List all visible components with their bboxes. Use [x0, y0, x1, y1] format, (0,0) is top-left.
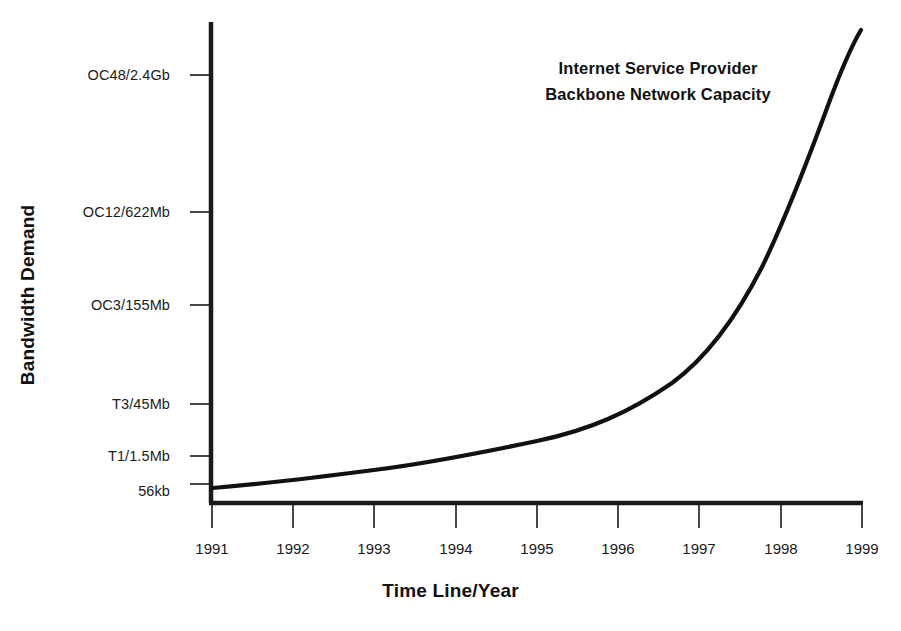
x-axis-title: Time Line/Year: [0, 580, 901, 602]
chart-figure: OC48/2.4Gb OC12/622Mb OC3/155Mb T3/45Mb …: [0, 0, 901, 631]
x-tick-label-1991: 1991: [172, 541, 252, 556]
y-axis-title: Bandwidth Demand: [17, 175, 39, 415]
x-tick-label-1992: 1992: [253, 541, 333, 556]
y-tick-label-56kb: 56kb: [20, 484, 170, 499]
y-tick-label-t3: T3/45Mb: [20, 397, 170, 412]
chart-title: Internet Service Provider Backbone Netwo…: [508, 56, 808, 107]
x-tick-label-1998: 1998: [741, 541, 821, 556]
y-tick-label-oc3: OC3/155Mb: [20, 298, 170, 313]
y-tick-label-oc12: OC12/622Mb: [20, 205, 170, 220]
x-tick-label-1996: 1996: [578, 541, 658, 556]
chart-title-line-2: Backbone Network Capacity: [508, 82, 808, 108]
x-tick-label-1994: 1994: [416, 541, 496, 556]
x-tick-label-1995: 1995: [497, 541, 577, 556]
y-tick-label-oc48: OC48/2.4Gb: [20, 68, 170, 83]
chart-title-line-1: Internet Service Provider: [508, 56, 808, 82]
x-tick-label-1993: 1993: [334, 541, 414, 556]
x-tick-label-1997: 1997: [659, 541, 739, 556]
x-tick-label-1999: 1999: [822, 541, 901, 556]
y-tick-label-t1: T1/1.5Mb: [20, 449, 170, 464]
